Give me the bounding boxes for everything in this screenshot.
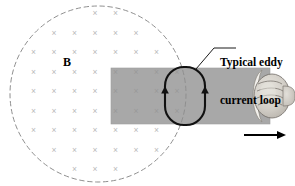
field-marker-x: × <box>72 125 77 135</box>
field-marker-x: × <box>31 86 36 96</box>
wrist-sleeve <box>283 86 295 106</box>
field-marker-x: × <box>52 28 57 38</box>
field-marker-x: × <box>31 47 36 57</box>
field-marker-x: × <box>93 125 98 135</box>
field-marker-x: × <box>93 47 98 57</box>
field-marker-x: × <box>72 47 77 57</box>
field-marker-x: × <box>52 145 57 155</box>
callout-label-line-1: Typical eddy <box>220 56 283 69</box>
field-marker-group: ××××××××××××××××××××××××××××××××××××××××… <box>31 8 180 174</box>
field-marker-x: × <box>52 86 57 96</box>
field-marker-x: × <box>113 8 118 18</box>
field-marker-x: × <box>175 86 180 96</box>
field-marker-x: × <box>113 86 118 96</box>
eddy-current-figure: ××××××××××××××××××××××××××××××××××××××××… <box>0 0 295 186</box>
field-marker-x: × <box>93 145 98 155</box>
field-marker-x: × <box>113 164 118 174</box>
field-marker-x: × <box>113 67 118 77</box>
field-marker-x: × <box>93 8 98 18</box>
callout-label-line-2: current loop <box>220 94 283 107</box>
field-marker-x: × <box>52 47 57 57</box>
field-marker-x: × <box>175 106 180 116</box>
field-marker-x: × <box>72 67 77 77</box>
field-marker-x: × <box>72 28 77 38</box>
field-marker-x: × <box>154 125 159 135</box>
field-marker-x: × <box>72 145 77 155</box>
field-marker-x: × <box>31 125 36 135</box>
field-marker-x: × <box>113 106 118 116</box>
field-marker-x: × <box>134 125 139 135</box>
field-marker-x: × <box>113 47 118 57</box>
field-marker-x: × <box>93 86 98 96</box>
field-marker-x: × <box>113 28 118 38</box>
field-marker-x: × <box>72 86 77 96</box>
field-marker-x: × <box>154 47 159 57</box>
magnetic-field-label: B <box>63 56 71 69</box>
field-marker-x: × <box>134 28 139 38</box>
field-marker-x: × <box>113 145 118 155</box>
field-marker-x: × <box>154 67 159 77</box>
field-marker-x: × <box>31 67 36 77</box>
field-marker-x: × <box>134 145 139 155</box>
field-marker-x: × <box>154 86 159 96</box>
field-marker-x: × <box>154 106 159 116</box>
field-marker-x: × <box>93 164 98 174</box>
field-marker-x: × <box>134 67 139 77</box>
field-marker-x: × <box>134 86 139 96</box>
eddy-loop-callout-label: Typical eddy current loop <box>220 30 283 133</box>
field-marker-x: × <box>134 106 139 116</box>
field-marker-x: × <box>113 125 118 135</box>
field-marker-x: × <box>52 125 57 135</box>
field-marker-x: × <box>72 164 77 174</box>
field-marker-x: × <box>31 106 36 116</box>
field-marker-x: × <box>134 47 139 57</box>
field-marker-x: × <box>93 67 98 77</box>
field-marker-x: × <box>72 106 77 116</box>
field-marker-x: × <box>52 106 57 116</box>
field-marker-x: × <box>154 145 159 155</box>
field-marker-x: × <box>52 67 57 77</box>
field-marker-x: × <box>93 28 98 38</box>
field-marker-x: × <box>93 106 98 116</box>
